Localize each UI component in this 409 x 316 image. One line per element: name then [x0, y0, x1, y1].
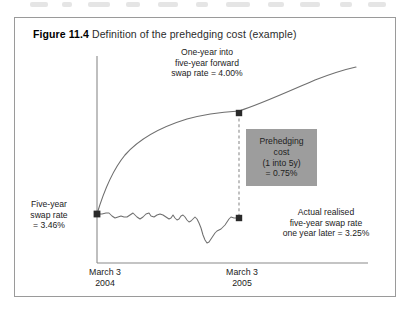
annotation-fiveyear-line3: = 3.46% — [7, 220, 91, 231]
annotation-forward-line3: swap rate = 4.00% — [137, 68, 277, 79]
annotation-forward-line1: One-year into — [137, 47, 277, 58]
annotation-actual-realised: Actual realised five-year swap rate one … — [253, 207, 399, 239]
figure-panel: Figure 11.4 Definition of the prehedging… — [14, 17, 396, 297]
annotation-actual-line1: Actual realised — [253, 207, 399, 218]
realised-rate-marker — [236, 215, 242, 221]
forward-rate-marker — [236, 110, 242, 116]
prehedging-line2: cost — [274, 147, 290, 158]
x-tick-2005-line1: March 3 — [200, 267, 284, 278]
x-tick-label-2005: March 3 2005 — [200, 267, 284, 289]
start-marker — [94, 211, 101, 218]
x-tick-label-2004: March 3 2004 — [63, 267, 147, 289]
annotation-actual-line3: one year later = 3.25% — [253, 228, 399, 239]
prehedging-cost-callout: Prehedging cost (1 into 5y) = 0.75% — [246, 129, 317, 186]
annotation-actual-line2: five-year swap rate — [253, 218, 399, 229]
annotation-forward-line2: five-year forward — [137, 58, 277, 69]
chart-plot-area: One-year into five-year forward swap rat… — [15, 18, 397, 298]
x-tick-2004-line2: 2004 — [63, 278, 147, 289]
prehedging-line1: Prehedging — [260, 136, 304, 147]
realised-rate-series — [97, 213, 239, 243]
prehedging-line3: (1 into 5y) — [262, 158, 300, 169]
annotation-fiveyear-line2: swap rate — [7, 210, 91, 221]
scan-artifact — [0, 0, 409, 12]
forward-curve-series — [97, 67, 356, 214]
x-tick-2004-line1: March 3 — [63, 267, 147, 278]
prehedging-line4: = 0.75% — [266, 168, 298, 179]
x-tick-2005-line2: 2005 — [200, 278, 284, 289]
annotation-fiveyear-line1: Five-year — [7, 199, 91, 210]
annotation-five-year-start: Five-year swap rate = 3.46% — [7, 199, 91, 231]
annotation-forward-rate: One-year into five-year forward swap rat… — [137, 47, 277, 79]
